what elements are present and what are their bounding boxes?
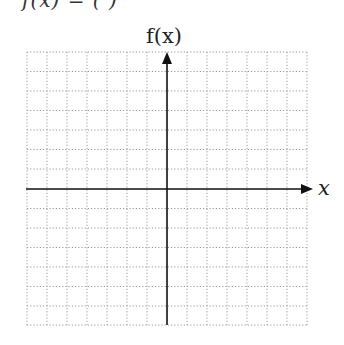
y-axis-arrow-icon [162,52,172,64]
x-axis-label: x [318,176,330,200]
coordinate-grid [0,0,344,345]
x-axis-arrow-icon [301,184,313,194]
y-axis-label: f(x) [146,24,182,48]
